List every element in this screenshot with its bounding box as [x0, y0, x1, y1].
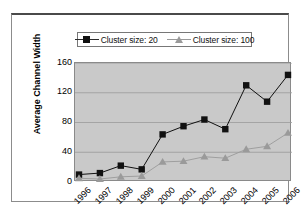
square-marker-icon: [285, 72, 291, 78]
legend-label-cluster-100: Cluster size: 100: [193, 35, 255, 45]
legend-square-glyph: [83, 36, 90, 43]
square-marker-icon: [243, 82, 249, 88]
legend-label-cluster-20: Cluster size: 20: [101, 35, 158, 45]
square-marker-icon: [118, 162, 124, 168]
figure-frame: Cluster size: 20 Cluster size: 100 Avera…: [11, 13, 289, 202]
y-tick-label: 80: [50, 117, 72, 126]
triangle-marker-icon: [263, 142, 271, 149]
y-axis-tick-labels: 16012080400: [48, 62, 72, 181]
x-axis-tick-labels: 1996199719981999200020012002200320042005…: [74, 182, 291, 214]
triangle-marker-icon: [284, 129, 292, 136]
square-marker-icon: [139, 166, 145, 172]
triangle-marker-icon: [138, 172, 146, 179]
square-marker-icon: [159, 131, 165, 137]
chart-figure: Cluster size: 20 Cluster size: 100 Avera…: [0, 0, 301, 214]
triangle-marker-icon: [167, 35, 191, 44]
plot-area: [74, 62, 291, 181]
square-marker-icon: [264, 98, 270, 104]
legend-triangle-glyph: [175, 36, 183, 43]
plot-svg: [75, 63, 292, 182]
y-tick-label: 0: [50, 177, 72, 186]
square-marker-icon: [222, 126, 228, 132]
legend-entry-cluster-20: Cluster size: 20: [75, 35, 158, 45]
square-marker-icon: [201, 116, 207, 122]
chart-legend: Cluster size: 20 Cluster size: 100: [77, 32, 252, 47]
y-tick-label: 40: [50, 147, 72, 156]
series-markers: [75, 72, 292, 182]
y-tick-label: 120: [50, 87, 72, 96]
y-axis-title: Average Channel Width: [32, 28, 42, 140]
y-tick-label: 160: [50, 58, 72, 67]
gridlines: [75, 63, 292, 152]
square-marker-icon: [75, 35, 99, 44]
legend-entry-cluster-100: Cluster size: 100: [167, 35, 255, 45]
series-line-2: [79, 133, 288, 179]
square-marker-icon: [180, 123, 186, 129]
triangle-marker-icon: [200, 153, 208, 160]
